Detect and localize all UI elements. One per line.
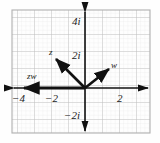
tick-label-neg-2i: −2i: [64, 110, 80, 121]
tick-label-2: 2: [117, 93, 123, 104]
vector-label-w: w: [111, 61, 117, 70]
tick-label-neg-4: −4: [12, 93, 25, 104]
tick-label-neg-2: −2: [45, 93, 58, 104]
tick-label-4i: 4i: [72, 16, 81, 27]
vector-label-zw: zw: [27, 72, 37, 81]
vector-label-z: z: [49, 48, 53, 57]
figure-container: 4i 2i −2i −4 −2 2 z w zw: [0, 0, 160, 143]
tick-label-2i: 2i: [72, 50, 81, 61]
